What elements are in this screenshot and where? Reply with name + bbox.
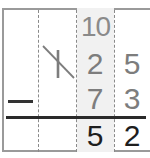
strike-through-icon [38,44,76,80]
crossed-out-hundreds-digit [38,44,76,80]
difference-tens-digit: 5 [77,121,113,151]
subtrahend-tens-digit: 7 [77,84,113,114]
minus-sign [8,100,33,103]
minuend-tens-digit: 2 [77,49,113,79]
difference-ones-digit: 2 [114,121,150,151]
subtrahend-ones-digit: 3 [114,84,150,114]
borrow-annotation: 10 [77,13,114,41]
minuend-ones-digit: 5 [114,49,150,79]
column-divider-1 [38,10,39,152]
